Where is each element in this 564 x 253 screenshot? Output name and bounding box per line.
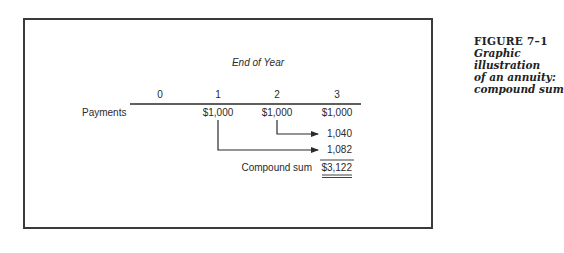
payment-year-3: $1,000 — [322, 107, 353, 118]
caption-line-3: compound sum — [474, 83, 564, 95]
row-label-payments: Payments — [82, 107, 126, 118]
year-label-3: 3 — [334, 89, 340, 100]
caption-line-2: of an annuity: — [474, 71, 564, 83]
figure-label: FIGURE 7–1 — [474, 35, 564, 47]
year-label-2: 2 — [274, 89, 280, 100]
payment-year-1: $1,000 — [203, 107, 234, 118]
axis-title: End of Year — [232, 57, 284, 68]
total-value: $3,122 — [321, 162, 352, 173]
year-label-1: 1 — [215, 89, 221, 100]
payment-year-2: $1,000 — [262, 107, 293, 118]
total-label: Compound sum — [241, 162, 312, 173]
arrow-year1-to-year3 — [218, 120, 318, 150]
year-label-0: 0 — [157, 89, 163, 100]
arrow-year2-to-year3 — [277, 120, 318, 134]
compounded-value-1040: 1,040 — [327, 128, 352, 139]
compounded-value-1082: 1,082 — [327, 144, 352, 155]
figure-caption: FIGURE 7–1 Graphic illustration of an an… — [474, 35, 564, 95]
caption-line-1: Graphic illustration — [474, 47, 564, 71]
